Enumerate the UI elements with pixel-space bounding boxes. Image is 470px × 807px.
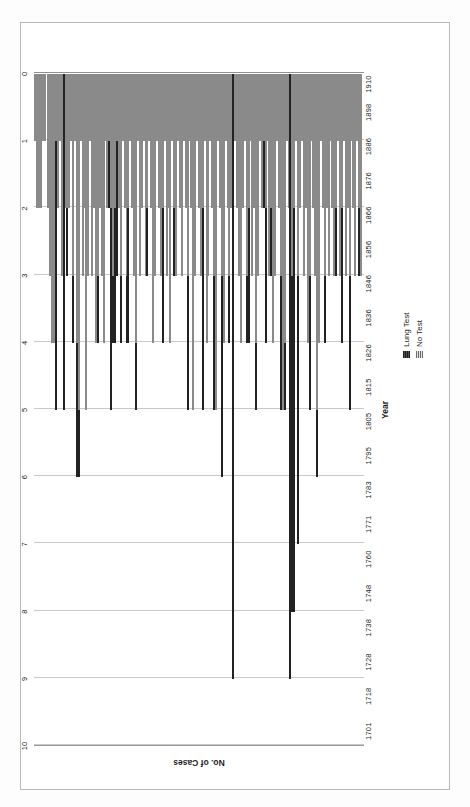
- legend-item-lung-test: Lung Test: [402, 312, 411, 358]
- bar-row: [360, 74, 362, 745]
- category-tick-label: 1748: [364, 584, 373, 602]
- legend-item-no-test: No Test: [415, 312, 424, 358]
- category-tick-label: 1886: [364, 137, 373, 155]
- bar-segment-no-test: [360, 74, 362, 276]
- category-tick-label: 1836: [364, 309, 373, 327]
- legend-label-no-test: No Test: [415, 320, 424, 347]
- category-tick-label: 1876: [364, 172, 373, 190]
- plot-area: [34, 74, 364, 746]
- legend-swatch-lung-test-icon: [403, 351, 410, 358]
- category-tick-label: 1815: [364, 378, 373, 396]
- value-axis-ticks: 012345678910: [20, 74, 34, 746]
- value-tick-label: 10: [20, 741, 29, 749]
- value-tick-label: 9: [20, 676, 29, 680]
- category-tick-label: 1856: [364, 240, 373, 258]
- value-tick-label: 0: [20, 71, 29, 75]
- value-tick-label: 7: [20, 542, 29, 546]
- category-tick-label: 1738: [364, 618, 373, 636]
- category-tick-label: 1826: [364, 344, 373, 362]
- category-tick-label: 1760: [364, 550, 373, 568]
- category-tick-label: 1910: [364, 75, 373, 93]
- category-tick-label: 1701: [364, 722, 373, 740]
- stacked-bar-chart: 012345678910 170117181728173817481760177…: [20, 20, 450, 788]
- value-tick-label: 4: [20, 340, 29, 344]
- category-axis-title: Year: [380, 74, 390, 746]
- gridline: [34, 72, 364, 73]
- category-tick-label: 1866: [364, 206, 373, 224]
- value-tick-label: 2: [20, 206, 29, 210]
- rotated-chart-stage: 012345678910 170117181728173817481760177…: [0, 0, 470, 807]
- value-axis-title: No. of Cases: [34, 752, 364, 774]
- value-tick-label: 1: [20, 139, 29, 143]
- category-tick-label: 1846: [364, 274, 373, 292]
- category-tick-label: 1805: [364, 412, 373, 430]
- category-tick-label: 1783: [364, 481, 373, 499]
- bar-series: [34, 74, 364, 745]
- category-tick-label: 1718: [364, 687, 373, 705]
- legend-swatch-no-test-icon: [416, 351, 423, 358]
- value-tick-label: 8: [20, 609, 29, 613]
- category-tick-label: 1771: [364, 515, 373, 533]
- category-tick-label: 1728: [364, 653, 373, 671]
- value-tick-label: 5: [20, 407, 29, 411]
- legend-label-lung-test: Lung Test: [402, 312, 411, 347]
- value-tick-label: 6: [20, 475, 29, 479]
- category-tick-label: 1795: [364, 446, 373, 464]
- value-tick-label: 3: [20, 273, 29, 277]
- chart-legend: Lung Test No Test: [402, 312, 424, 358]
- chart-page: 012345678910 170117181728173817481760177…: [0, 0, 470, 807]
- category-tick-label: 1898: [364, 103, 373, 121]
